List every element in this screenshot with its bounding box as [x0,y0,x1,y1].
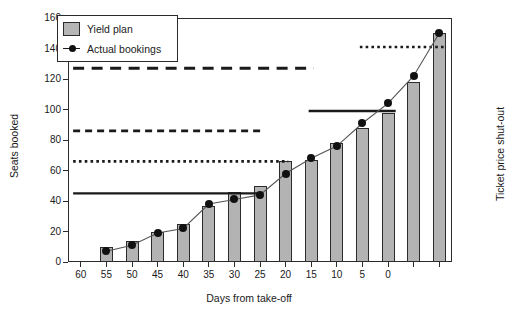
y-tick-mark [63,140,68,141]
legend-dot-icon [69,45,76,52]
legend-label-yield-plan: Yield plan [87,23,133,35]
legend-label-actual-bookings: Actual bookings [87,43,161,55]
y-tick-mark [63,231,68,232]
y-tick-mark [63,262,68,263]
x-tick-mark [336,262,337,267]
shutout-level-lines [73,47,447,193]
x-tick-mark [439,262,440,267]
x-tick-mark [106,262,107,267]
x-tick-mark [260,262,261,267]
data-point-marker [333,142,341,150]
x-tick-mark [234,262,235,267]
legend-line-marker-icon [63,42,80,56]
x-tick-mark [388,262,389,267]
data-point-marker [205,200,213,208]
chart-legend: Yield plan Actual bookings [57,15,178,62]
x-tick-mark [208,262,209,267]
data-point-marker [256,191,264,199]
y-tick-mark [63,201,68,202]
x-tick-mark [311,262,312,267]
actual-bookings-line [106,33,439,251]
x-tick-mark [183,262,184,267]
y-tick-mark [63,170,68,171]
y-tick-mark [63,109,68,110]
x-tick-mark [362,262,363,267]
data-point-marker [154,229,162,237]
x-tick-mark [413,262,414,267]
data-point-marker [410,72,418,80]
x-tick-mark [132,262,133,267]
data-point-marker [282,170,290,178]
legend-entry-yield-plan: Yield plan [63,19,133,39]
legend-swatch-icon [63,22,80,36]
x-tick-mark [285,262,286,267]
x-tick-mark [80,262,81,267]
x-tick-mark [157,262,158,267]
legend-entry-actual-bookings: Actual bookings [63,39,161,59]
y-tick-mark [63,79,68,80]
